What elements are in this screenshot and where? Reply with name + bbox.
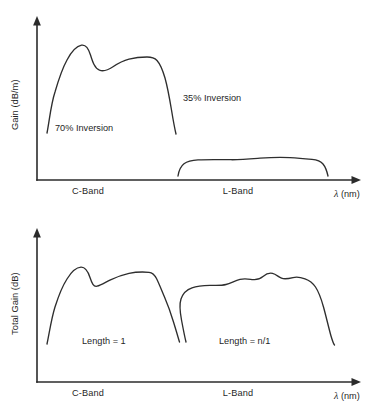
bottom-chart-annotation-length-1: Length = 1: [82, 336, 126, 346]
bottom-chart-l-band-label: L-Band: [223, 388, 254, 398]
bottom-chart-l-band-curve: [180, 273, 335, 345]
top-chart-c-band-curve: [47, 45, 176, 134]
bottom-chart-x-axis-label: λ (nm): [333, 390, 360, 401]
figure-container: Gain (dB/m) C-Band L-Band λ (nm) 70% Inv…: [0, 0, 381, 413]
figure-svg: Gain (dB/m) C-Band L-Band λ (nm) 70% Inv…: [0, 0, 381, 413]
top-chart-x-axis-label: λ (nm): [333, 188, 360, 199]
top-chart-annotation-35-inversion: 35% Inversion: [183, 93, 241, 103]
top-chart-annotation-70-inversion: 70% Inversion: [55, 123, 113, 133]
bottom-chart-y-axis-arrow-icon: [33, 228, 41, 238]
bottom-chart: Total Gain (dB) C-Band L-Band λ (nm) Len…: [9, 228, 361, 401]
top-chart-l-band-label: L-Band: [223, 186, 254, 196]
top-chart-x-axis-arrow-icon: [352, 176, 362, 184]
top-chart-y-axis-label: Gain (dB/m): [9, 79, 20, 130]
bottom-chart-y-axis-label: Total Gain (dB): [9, 272, 20, 335]
top-chart-l-band-curve: [178, 157, 328, 176]
top-chart-y-axis-arrow-icon: [33, 16, 41, 26]
bottom-chart-c-band-curve: [47, 267, 180, 344]
bottom-chart-x-axis-arrow-icon: [352, 378, 362, 386]
top-chart-c-band-label: C-Band: [72, 186, 104, 196]
top-chart: Gain (dB/m) C-Band L-Band λ (nm) 70% Inv…: [9, 16, 361, 199]
bottom-chart-annotation-length-n: Length = n/1: [219, 336, 270, 346]
bottom-chart-c-band-label: C-Band: [72, 388, 104, 398]
